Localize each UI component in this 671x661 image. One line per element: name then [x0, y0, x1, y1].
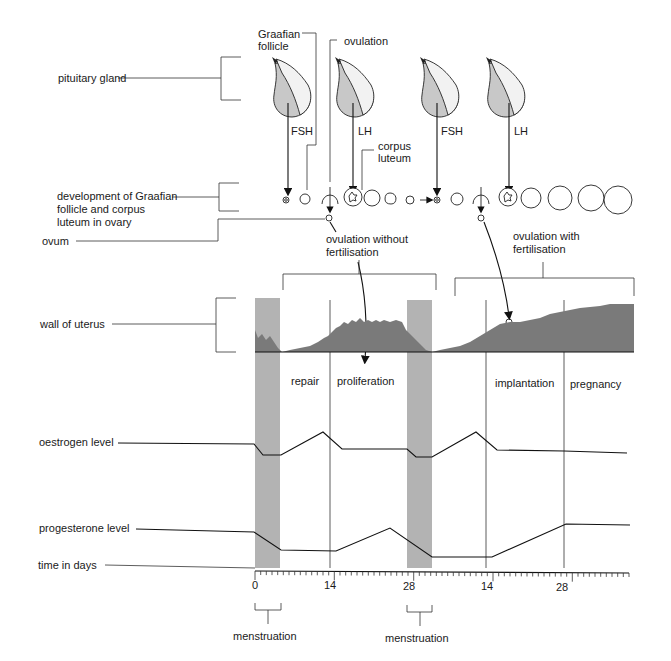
oestrogen-line — [118, 432, 627, 457]
label-oestrogen: oestrogen level — [39, 436, 114, 448]
phase-pregnancy: pregnancy — [570, 378, 622, 390]
label-ovulation: ovulation — [344, 35, 388, 47]
label-hormone-lh-2: LH — [514, 125, 528, 137]
menstruation-brackets — [255, 603, 432, 626]
pituitary-bracket — [118, 57, 241, 100]
label-with-2: fertilisation — [513, 243, 566, 255]
time-axis — [105, 565, 629, 582]
label-corpus-1: corpus — [378, 140, 412, 152]
uterus-bracket — [112, 298, 236, 352]
tick-28a: 28 — [403, 580, 415, 592]
label-menstruation-2: menstruation — [385, 632, 449, 644]
progesterone-line — [136, 524, 630, 557]
tick-14a: 14 — [324, 579, 336, 591]
uterus-wall — [255, 304, 634, 352]
label-hormone-fsh-2: FSH — [441, 125, 463, 137]
label-without-2: fertilisation — [326, 246, 379, 258]
pituitary-gland-icon — [420, 57, 459, 117]
pituitary-glands — [272, 57, 525, 117]
label-menstruation-1: menstruation — [233, 630, 297, 642]
label-development-3: luteum in ovary — [57, 216, 132, 228]
label-hormone-fsh-1: FSH — [291, 125, 313, 137]
label-corpus-2: luteum — [378, 152, 411, 164]
label-uterus: wall of uterus — [39, 318, 105, 330]
label-with-1: ovulation with — [513, 230, 580, 242]
pituitary-gland-icon — [272, 57, 311, 117]
pituitary-gland-icon — [335, 57, 374, 117]
pituitary-gland-icon — [486, 57, 525, 117]
label-progesterone: progesterone level — [39, 522, 130, 534]
label-pituitary: pituitary gland — [58, 72, 127, 84]
menstrual-cycle-diagram: pituitary gland development of Graafian … — [0, 0, 671, 661]
cycle-brackets — [283, 260, 634, 296]
label-without-1: ovulation without — [326, 233, 408, 245]
phase-implantation: implantation — [495, 377, 554, 389]
phase-repair: repair — [291, 375, 319, 387]
label-development-2: follicle and corpus — [57, 203, 146, 215]
phase-proliferation: proliferation — [337, 375, 394, 387]
tick-28b: 28 — [556, 581, 568, 593]
development-bracket — [172, 183, 239, 211]
label-graafian-1: Graafian — [258, 28, 300, 40]
label-graafian-2: follicle — [258, 40, 289, 52]
tick-14b: 14 — [481, 580, 493, 592]
tick-0: 0 — [252, 579, 258, 591]
label-time: time in days — [38, 559, 97, 571]
label-ovum: ovum — [42, 235, 69, 247]
label-hormone-lh-1: LH — [358, 125, 372, 137]
label-development-1: development of Graafian — [57, 190, 177, 202]
